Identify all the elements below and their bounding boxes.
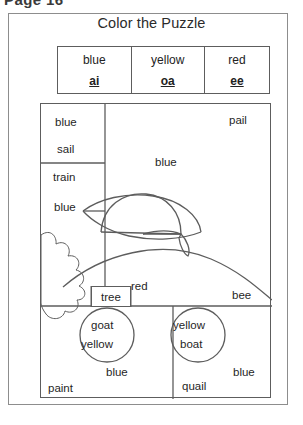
label-blue-bottom-right: blue [233, 367, 255, 379]
label-blue-sky: blue [155, 157, 177, 169]
legend-cell-red: red ee [205, 47, 269, 93]
puzzle-grid: blue sail train blue pail blue red bee g… [40, 103, 271, 398]
legend-color-label: blue [83, 53, 106, 67]
label-bee: bee [232, 290, 251, 302]
boat-hull-lower [83, 211, 201, 239]
scan-page-header: Page 16 [4, 0, 64, 8]
goat-circle [80, 308, 134, 362]
label-sail: sail [57, 144, 74, 156]
label-train: train [53, 172, 75, 184]
boat-circle [171, 308, 225, 362]
legend-cell-blue: blue ai [58, 47, 132, 93]
label-yellow-goat: yellow [81, 339, 113, 351]
label-blue-bottom-left: blue [106, 367, 128, 379]
page-title: Color the Puzzle [0, 15, 303, 31]
puzzle-line-art [41, 104, 272, 399]
boat-hull-upper [83, 195, 201, 232]
legend-sound-label: ai [89, 74, 99, 88]
legend-sound-label: oa [161, 74, 175, 88]
color-key-table: blue ai yellow oa red ee [57, 46, 270, 94]
legend-color-label: red [228, 53, 245, 67]
label-blue-left-mid: blue [54, 202, 76, 214]
label-pail: pail [229, 115, 247, 127]
legend-cell-yellow: yellow oa [132, 47, 206, 93]
label-red: red [131, 281, 148, 293]
label-goat: goat [91, 320, 113, 332]
legend-color-label: yellow [151, 53, 184, 67]
legend-sound-label: ee [230, 74, 243, 88]
label-blue-top-left: blue [55, 117, 77, 129]
label-paint: paint [48, 383, 73, 395]
label-boat: boat [180, 339, 202, 351]
label-yellow-boat: yellow [173, 320, 205, 332]
label-tree: tree [91, 286, 131, 307]
label-quail: quail [182, 381, 206, 393]
